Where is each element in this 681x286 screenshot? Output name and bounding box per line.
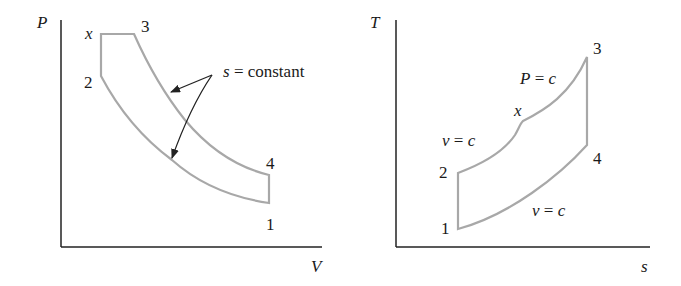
ts-diagram	[396, 20, 650, 247]
ts-state-2-label: 2	[439, 164, 448, 181]
v-var: v	[532, 201, 540, 220]
ts-state-x-label: x	[514, 102, 522, 119]
ts-state-4-label: 4	[593, 150, 602, 167]
ts-state-1-label: 1	[441, 220, 450, 237]
pv-state-3-label: 3	[141, 18, 150, 35]
diagram-canvas	[0, 0, 681, 286]
pv-state-2-label: 2	[84, 74, 93, 91]
v-c: c	[558, 201, 566, 220]
v-c: c	[468, 131, 476, 150]
pv-diagram	[61, 20, 322, 247]
annotation-var: s	[223, 62, 230, 81]
pv-state-4-label: 4	[266, 155, 275, 172]
pv-state-1-label: 1	[266, 216, 275, 233]
pv-state-x-label: x	[85, 25, 93, 42]
v-constant-lower-label: v = c	[532, 202, 565, 219]
pv-x-axis-label: V	[311, 258, 321, 275]
ts-x-axis-label: s	[641, 258, 648, 275]
annotation-text: = constant	[234, 62, 305, 81]
p-constant-label: P = c	[520, 70, 556, 87]
ts-y-axis-label: T	[370, 14, 379, 31]
v-eq: =	[454, 131, 464, 150]
v-eq: =	[544, 201, 554, 220]
pv-y-axis-label: P	[37, 14, 47, 31]
pv-cycle-path	[101, 34, 269, 203]
p-c: c	[548, 69, 556, 88]
arrow-to-lower-isentrope	[172, 75, 212, 158]
isentrope-annotation: s = constant	[223, 63, 304, 80]
ts-state-3-label: 3	[593, 40, 602, 57]
v-constant-upper-label: v = c	[442, 132, 475, 149]
p-var: P	[520, 69, 530, 88]
p-eq: =	[535, 69, 545, 88]
v-var: v	[442, 131, 450, 150]
